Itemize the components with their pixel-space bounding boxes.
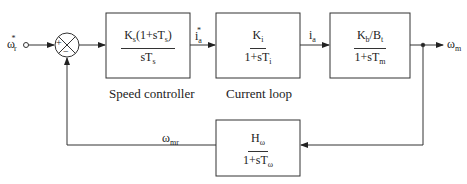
speed-controller-numerator: Ks(1+sTs) [121, 28, 175, 49]
motor-denominator: 1+sTm [354, 49, 385, 69]
current-label: ia [309, 28, 316, 44]
speed-controller-tf: Ks(1+sTs) sTs [120, 28, 176, 70]
current-loop-caption: Current loop [226, 86, 292, 102]
output-label: ωm [447, 37, 461, 53]
current-loop-tf: Ki 1+sTi [238, 28, 278, 70]
motor-numerator: Kb/Bt [354, 28, 386, 49]
plus-sign: + [56, 37, 62, 48]
speed-filter-numerator: Hω [248, 131, 268, 152]
input-label: ωr* [7, 36, 21, 53]
motor-tf: Kb/Bt 1+sTm [349, 28, 391, 70]
current-loop-denominator: 1+sTi [244, 49, 271, 69]
speed-filter-tf: Hω 1+sTω [238, 131, 278, 173]
minus-sign: − [63, 46, 69, 57]
current-ref-label: ia* [195, 28, 206, 45]
current-loop-numerator: Ki [250, 28, 267, 49]
speed-controller-denominator: sTs [140, 49, 155, 69]
feedback-label: ωmr [162, 131, 179, 147]
input-terminal [24, 43, 29, 48]
speed-controller-caption: Speed controller [109, 86, 195, 102]
speed-filter-denominator: 1+sTω [243, 152, 273, 172]
